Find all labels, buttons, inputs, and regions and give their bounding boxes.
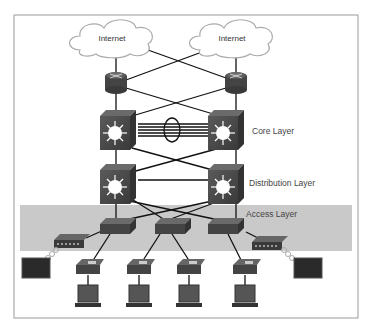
- cloud-label: Internet: [218, 34, 246, 43]
- pc-2: [126, 285, 152, 307]
- ip-phone-3: [177, 259, 205, 274]
- core-switch-right: [208, 110, 244, 150]
- access-switch-2: [155, 218, 191, 234]
- core-switch-left: [100, 110, 136, 150]
- access-layer-label: Access Layer: [246, 209, 297, 219]
- ip-phone-1: [76, 259, 104, 274]
- pc-3: [176, 285, 202, 307]
- distribution-layer-label: Distribution Layer: [249, 178, 315, 188]
- ip-phone-2: [127, 259, 155, 274]
- pc-4: [232, 285, 258, 307]
- laptop-left: [22, 258, 50, 278]
- distribution-switch-left: [100, 164, 136, 204]
- pc-1: [75, 285, 101, 307]
- laptop-right: [294, 258, 322, 278]
- distribution-switch-right: [208, 164, 244, 204]
- router-right: [225, 72, 247, 94]
- access-switch-3: [208, 218, 244, 234]
- access-switch-1: [100, 218, 136, 234]
- router-left: [105, 72, 127, 94]
- cloud-label: Internet: [98, 34, 126, 43]
- network-diagram: Internet Internet: [0, 0, 369, 329]
- core-layer-label: Core Layer: [252, 126, 294, 136]
- ip-phone-4: [233, 259, 261, 274]
